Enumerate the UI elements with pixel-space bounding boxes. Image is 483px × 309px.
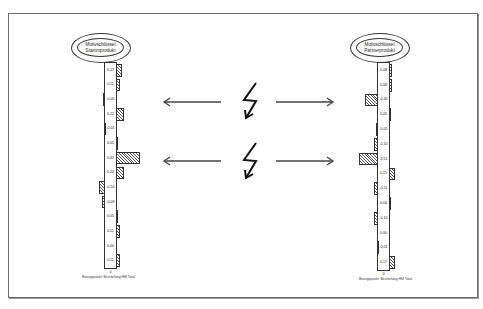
connector-overlay [0,0,483,309]
deviation-bar [374,138,378,151]
deviation-bar [99,181,105,194]
deviation-bar [116,152,140,165]
deviation-bar [104,123,106,136]
lower-lightning-icon [244,143,256,178]
deviation-bar [116,254,120,267]
deviation-bar [377,241,379,254]
deviation-bar [116,137,118,150]
lower-right-arrow [276,157,333,165]
deviation-bar [365,94,378,107]
upper-lightning-icon [244,83,256,118]
deviation-bar [389,64,392,77]
upper-right-arrow [276,98,333,106]
deviation-bar [376,123,378,136]
deviation-bar [359,153,378,166]
deviation-bar [374,182,378,195]
lower-left-arrow [164,157,221,165]
deviation-bar [116,108,124,121]
deviation-bar [389,197,391,210]
deviation-bar [116,79,120,92]
deviation-bar [389,256,395,269]
deviation-bar [389,108,391,121]
deviation-bar [116,167,124,180]
upper-left-arrow [164,98,221,106]
deviation-bar [389,168,395,181]
deviation-bar [103,93,105,106]
deviation-bar [102,196,105,209]
deviation-bar [116,210,118,223]
deviation-bar [374,212,378,225]
deviation-bar [116,225,120,238]
deviation-bar [389,79,392,92]
deviation-bar [116,64,122,77]
